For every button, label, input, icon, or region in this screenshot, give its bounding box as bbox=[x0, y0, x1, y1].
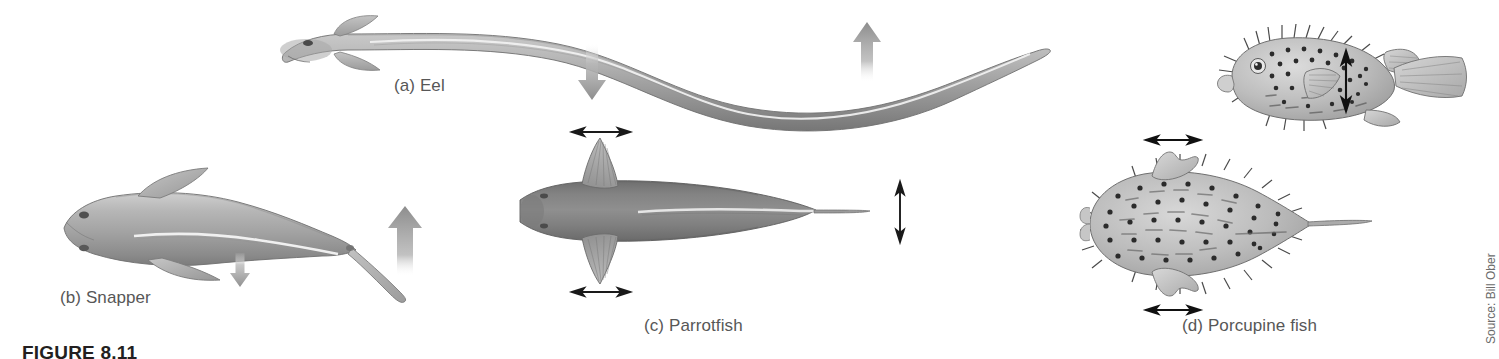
figure-container: (a) Eel bbox=[0, 0, 1499, 359]
porcupinefish-body-dorsal bbox=[1080, 172, 1372, 277]
porcupinefish-dorsal-illustration bbox=[1040, 130, 1420, 320]
figure-number: FIGURE 8.11 bbox=[22, 342, 137, 359]
parrotfish-pectoral-fin-bottom bbox=[582, 234, 618, 284]
parrotfish-illustration bbox=[520, 128, 940, 308]
eel-illustration bbox=[278, 4, 1068, 134]
panel-d-caption: (d) Porcupine fish bbox=[1182, 316, 1317, 336]
parrotfish-body bbox=[520, 181, 870, 242]
eel-up-arrow bbox=[853, 22, 881, 82]
panel-b-caption: (b) Snapper bbox=[60, 288, 151, 308]
parrotfish-horizontal-arrow-top bbox=[572, 128, 630, 136]
panel-c-caption: (c) Parrotfish bbox=[644, 316, 743, 336]
snapper-body bbox=[64, 193, 356, 266]
porcupinefish-anal-fin-lateral bbox=[1364, 110, 1400, 126]
parrotfish-vertical-arrow-tail bbox=[896, 182, 904, 242]
porcupinefish-lateral-illustration bbox=[1210, 18, 1499, 133]
snapper-up-arrow bbox=[388, 206, 422, 276]
source-credit: Source: Bill Ober bbox=[1484, 253, 1498, 344]
porcupinefish-horizontal-arrow-bottom bbox=[1146, 306, 1200, 314]
parrotfish-pectoral-fin-top bbox=[582, 138, 618, 188]
porcupinefish-horizontal-arrow-top bbox=[1146, 136, 1200, 144]
panel-a-caption: (a) Eel bbox=[394, 76, 445, 96]
snapper-caudal-fin bbox=[348, 248, 406, 302]
parrotfish-horizontal-arrow-bottom bbox=[572, 288, 630, 296]
